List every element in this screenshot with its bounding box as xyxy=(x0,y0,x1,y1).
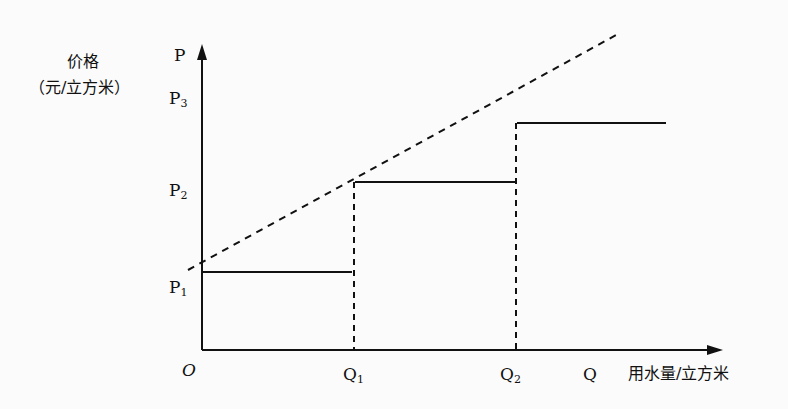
p2-letter: P xyxy=(169,180,180,200)
y-axis-arrow-icon xyxy=(197,44,207,60)
p3-subscript: 3 xyxy=(180,97,187,110)
q1-label: Q1 xyxy=(343,366,364,385)
y-axis-unit: （元/立方米） xyxy=(29,80,130,96)
p3-label: P3 xyxy=(169,90,187,109)
x-axis-symbol: Q xyxy=(583,366,597,383)
p2-subscript: 2 xyxy=(180,189,187,202)
p2-label: P2 xyxy=(169,182,187,201)
y-axis-symbol: P xyxy=(174,47,185,64)
x-axis-arrow-icon xyxy=(707,345,723,355)
p1-subscript: 1 xyxy=(180,286,187,299)
q2-label: Q2 xyxy=(500,366,521,385)
p3-letter: P xyxy=(169,88,180,108)
y-axis-title: 价格 xyxy=(67,54,99,70)
q2-subscript: 2 xyxy=(514,373,521,386)
origin-label: O xyxy=(182,362,196,379)
q2-letter: Q xyxy=(500,364,514,384)
q1-subscript: 1 xyxy=(357,373,364,386)
p1-label: P1 xyxy=(169,279,187,298)
p1-letter: P xyxy=(169,277,180,297)
diagram-canvas xyxy=(0,0,788,409)
linear-price-dashed-line xyxy=(188,34,618,270)
x-axis-title: 用水量/立方米 xyxy=(628,366,729,382)
q1-letter: Q xyxy=(343,364,357,384)
